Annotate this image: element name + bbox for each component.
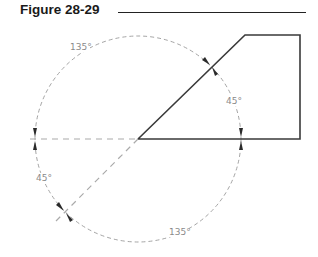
angle-diagram: 135° 45° 45° 135° — [0, 0, 318, 257]
arrowhead-right-bottom — [239, 141, 243, 150]
label-bottom-135: 135° — [169, 227, 191, 237]
part-outline — [138, 35, 300, 139]
label-right-45: 45° — [226, 96, 242, 106]
arrowhead-right-top — [239, 128, 243, 137]
arrowhead-left-top — [33, 128, 37, 137]
arrowhead-diag-top-a — [202, 57, 210, 65]
label-left-45: 45° — [36, 173, 52, 183]
arrowhead-left-bottom — [33, 141, 37, 150]
arrowhead-diag-top-b — [212, 67, 218, 76]
label-top-135: 135° — [70, 42, 92, 52]
diagonal-extension-line — [56, 139, 138, 221]
